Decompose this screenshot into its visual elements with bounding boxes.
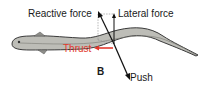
pectoral-fin bbox=[34, 32, 45, 36]
thrust-label: Thrust bbox=[63, 43, 91, 54]
pelvic-fin bbox=[38, 50, 47, 54]
force-diagram: Reactive force Lateral force Thrust B Pu… bbox=[0, 0, 206, 89]
panel-letter: B bbox=[97, 66, 104, 77]
push-arrow bbox=[114, 44, 130, 80]
fish-eye bbox=[18, 41, 20, 43]
reactive-force-label: Reactive force bbox=[28, 8, 92, 19]
lateral-force-label: Lateral force bbox=[118, 8, 174, 19]
push-label: Push bbox=[130, 72, 153, 83]
